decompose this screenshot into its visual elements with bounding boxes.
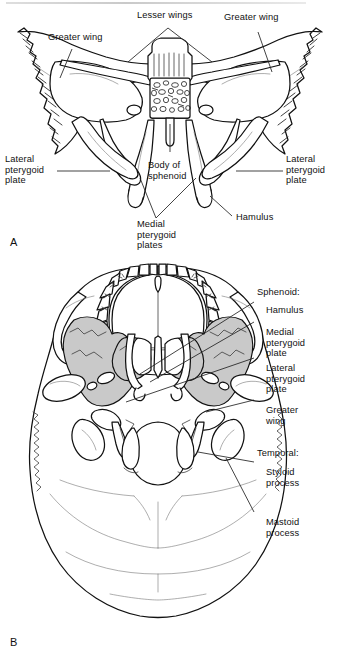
label-lateral-pterygoid-left: Lateral pterygoid plate	[5, 154, 44, 186]
panel-a: Greater wing Lesser wings Greater wing L…	[0, 0, 340, 262]
label-sphenoid-heading: Sphenoid:	[257, 287, 300, 298]
skull-base-drawing	[0, 262, 340, 667]
label-mastoid-process: Mastoid process	[266, 517, 299, 538]
label-temporal-heading: Temporal:	[257, 448, 299, 459]
label-hamulus-b: Hamulus	[266, 305, 303, 316]
panel-letter-a: A	[10, 236, 17, 248]
label-lesser-wings: Lesser wings	[137, 10, 192, 21]
label-lateral-pterygoid-plate: Lateral pterygoid plate	[266, 363, 305, 395]
panel-b: Sphenoid: Hamulus Medial pterygoid plate…	[0, 262, 340, 667]
label-body-of-sphenoid: Body of sphenoid	[148, 160, 187, 181]
anatomy-figure: Greater wing Lesser wings Greater wing L…	[0, 0, 340, 667]
label-greater-wing-b: Greater wing	[266, 405, 298, 426]
label-lateral-pterygoid-right: Lateral pterygoid plate	[286, 154, 325, 186]
label-hamulus: Hamulus	[236, 212, 273, 223]
label-styloid-process: Styloid process	[266, 467, 299, 488]
label-greater-wing-right: Greater wing	[224, 12, 278, 23]
label-medial-pterygoid-plates: Medial pterygoid plates	[137, 219, 176, 251]
label-medial-pterygoid-plate: Medial pterygoid plate	[266, 327, 305, 359]
panel-letter-b: B	[10, 636, 17, 648]
label-greater-wing-left: Greater wing	[48, 32, 102, 43]
